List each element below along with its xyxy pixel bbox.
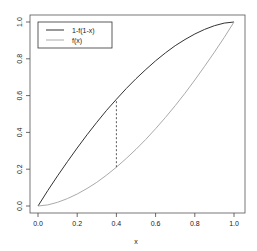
x-tick-label: 0.2	[72, 220, 82, 227]
y-tick-label: 0.2	[16, 164, 23, 174]
y-tick-label: 0.8	[16, 54, 23, 64]
series-line-1	[38, 22, 234, 206]
series-line-0	[38, 22, 234, 206]
y-tick-label: 0.4	[16, 127, 23, 137]
x-tick-label: 1.0	[229, 220, 239, 227]
legend-label-series-1: f(x)	[72, 37, 82, 45]
x-tick-label: 0.0	[33, 220, 43, 227]
x-axis: 0.00.20.40.60.81.0	[33, 213, 239, 227]
y-tick-label: 0.0	[16, 201, 23, 211]
x-tick-label: 0.8	[190, 220, 200, 227]
y-axis: 0.00.20.40.60.81.0	[16, 17, 30, 211]
chart: 0.00.20.40.60.81.0 0.00.20.40.60.81.0 x …	[0, 0, 257, 251]
y-tick-label: 0.6	[16, 91, 23, 101]
series-group	[38, 22, 234, 206]
y-tick-label: 1.0	[16, 17, 23, 27]
legend: 1-f(1-x) f(x)	[38, 22, 112, 48]
x-axis-label: x	[134, 238, 138, 245]
chart-svg: 0.00.20.40.60.81.0 0.00.20.40.60.81.0 x …	[0, 0, 257, 251]
legend-label-series-0: 1-f(1-x)	[72, 27, 95, 35]
x-tick-label: 0.6	[151, 220, 161, 227]
x-tick-label: 0.4	[112, 220, 122, 227]
